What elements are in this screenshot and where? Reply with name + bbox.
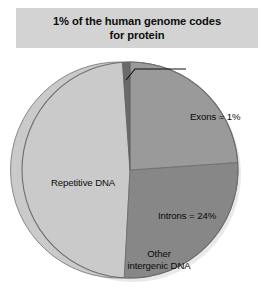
pie-label-repetitive-dna: Repetitive DNA [34,177,132,189]
chart-title-box: 1% of the human genome codes for protein [16,8,258,48]
pie-label-introns: Introns = 24% [144,210,230,222]
chart-area: Repetitive DNA Introns = 24% Other inter… [0,50,275,291]
pie-chart-figure: 1% of the human genome codes for protein… [0,0,275,291]
pie-label-other-intergenic-dna: Other intergenic DNA [111,248,207,271]
pie-slice-repetitive-dna [11,62,130,278]
pie-label-exons: Exons = 1% [190,111,268,123]
page-title: 1% of the human genome codes for protein [53,14,221,42]
